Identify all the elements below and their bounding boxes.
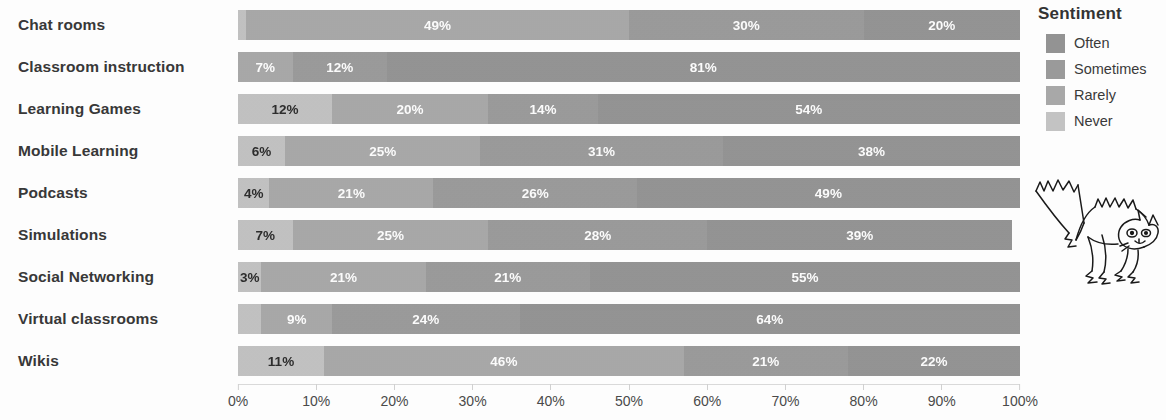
segment-value-label: 4% bbox=[244, 186, 264, 201]
bar-segment: 25% bbox=[293, 220, 489, 250]
x-axis-tick-label: 90% bbox=[928, 393, 956, 409]
category-label: Wikis bbox=[0, 352, 238, 370]
x-axis: 0%10%20%30%40%50%60%70%80%90%100% bbox=[238, 384, 1020, 418]
segment-value-label: 39% bbox=[846, 228, 873, 243]
bar-row: Podcasts4%21%26%49% bbox=[0, 172, 1020, 214]
bar-segment: 49% bbox=[637, 178, 1020, 208]
bar-segment: 25% bbox=[285, 136, 481, 166]
segment-value-label: 12% bbox=[271, 102, 298, 117]
bar-row: Social Networking3%21%21%55% bbox=[0, 256, 1020, 298]
x-axis-tick: 100% bbox=[1002, 384, 1038, 409]
category-label: Chat rooms bbox=[0, 16, 238, 34]
bar-row: Chat rooms49%30%20% bbox=[0, 4, 1020, 46]
legend-swatch-icon bbox=[1046, 60, 1065, 79]
bar-segment: 4% bbox=[238, 178, 269, 208]
tick-mark bbox=[863, 384, 864, 390]
legend-item[interactable]: Rarely bbox=[1046, 82, 1166, 108]
bar-segment: 11% bbox=[238, 346, 324, 376]
chart-page: Chat rooms49%30%20%Classroom instruction… bbox=[0, 0, 1166, 420]
category-label: Simulations bbox=[0, 226, 238, 244]
bar-segment: 24% bbox=[332, 304, 520, 334]
segment-value-label: 20% bbox=[928, 18, 955, 33]
category-label: Classroom instruction bbox=[0, 58, 238, 76]
legend-item[interactable]: Never bbox=[1046, 108, 1166, 134]
bar-segment: 30% bbox=[629, 10, 864, 40]
tick-mark bbox=[472, 384, 473, 390]
bar-segment: 31% bbox=[480, 136, 722, 166]
tick-mark bbox=[941, 384, 942, 390]
x-axis-tick-label: 100% bbox=[1002, 393, 1038, 409]
x-axis-tick: 20% bbox=[380, 384, 408, 409]
stacked-bar: 6%25%31%38% bbox=[238, 136, 1020, 166]
bar-row: Wikis11%46%21%22% bbox=[0, 340, 1020, 382]
legend-item[interactable]: Sometimes bbox=[1046, 56, 1166, 82]
tick-mark bbox=[785, 384, 786, 390]
tick-mark bbox=[629, 384, 630, 390]
segment-value-label: 55% bbox=[791, 270, 818, 285]
x-axis-tick: 80% bbox=[850, 384, 878, 409]
tick-mark bbox=[707, 384, 708, 390]
bar-segment: 54% bbox=[598, 94, 1020, 124]
bar-segment: 6% bbox=[238, 136, 285, 166]
segment-value-label: 7% bbox=[256, 228, 276, 243]
legend-label: Often bbox=[1074, 35, 1109, 51]
segment-value-label: 26% bbox=[522, 186, 549, 201]
segment-value-label: 20% bbox=[397, 102, 424, 117]
bar-segment: 21% bbox=[426, 262, 590, 292]
bar-segment: 81% bbox=[387, 52, 1020, 82]
bar-segment: 7% bbox=[238, 52, 293, 82]
x-axis-tick: 30% bbox=[459, 384, 487, 409]
category-label: Virtual classrooms bbox=[0, 310, 238, 328]
bar-segment: 28% bbox=[488, 220, 707, 250]
legend: Sentiment OftenSometimesRarelyNever bbox=[1032, 4, 1166, 134]
category-label: Mobile Learning bbox=[0, 142, 238, 160]
x-axis-tick: 50% bbox=[615, 384, 643, 409]
bar-segment: 3% bbox=[238, 262, 261, 292]
bar-row: Virtual classrooms9%24%64% bbox=[0, 298, 1020, 340]
legend-item-list: OftenSometimesRarelyNever bbox=[1032, 30, 1166, 134]
stacked-bar: 49%30%20% bbox=[238, 10, 1020, 40]
segment-value-label: 46% bbox=[490, 354, 517, 369]
tick-mark bbox=[316, 384, 317, 390]
bar-segment: 55% bbox=[590, 262, 1020, 292]
segment-value-label: 38% bbox=[858, 144, 885, 159]
bar-segment: 26% bbox=[433, 178, 636, 208]
bar-segment: 12% bbox=[293, 52, 387, 82]
bar-segment: 46% bbox=[324, 346, 684, 376]
legend-item[interactable]: Often bbox=[1046, 30, 1166, 56]
x-axis-tick-label: 40% bbox=[537, 393, 565, 409]
chart-plot-area: Chat rooms49%30%20%Classroom instruction… bbox=[0, 4, 1020, 382]
legend-label: Never bbox=[1074, 113, 1113, 129]
stacked-bar: 7%25%28%39% bbox=[238, 220, 1020, 250]
bar-segment: 38% bbox=[723, 136, 1020, 166]
legend-title: Sentiment bbox=[1038, 4, 1166, 24]
segment-value-label: 49% bbox=[424, 18, 451, 33]
x-axis-tick-label: 60% bbox=[693, 393, 721, 409]
legend-label: Sometimes bbox=[1074, 61, 1147, 77]
stacked-bar: 12%20%14%54% bbox=[238, 94, 1020, 124]
stacked-bar: 4%21%26%49% bbox=[238, 178, 1020, 208]
x-axis-tick-label: 30% bbox=[459, 393, 487, 409]
stacked-bar: 9%24%64% bbox=[238, 304, 1020, 334]
bar-row: Mobile Learning6%25%31%38% bbox=[0, 130, 1020, 172]
segment-value-label: 81% bbox=[690, 60, 717, 75]
x-axis-tick: 60% bbox=[693, 384, 721, 409]
x-axis-tick: 40% bbox=[537, 384, 565, 409]
bar-segment: 21% bbox=[261, 262, 425, 292]
segment-value-label: 9% bbox=[287, 312, 307, 327]
legend-swatch-icon bbox=[1046, 86, 1065, 105]
segment-value-label: 28% bbox=[584, 228, 611, 243]
bar-segment bbox=[238, 304, 261, 334]
stacked-bar: 7%12%81% bbox=[238, 52, 1020, 82]
x-axis-tick-label: 70% bbox=[771, 393, 799, 409]
bar-segment: 12% bbox=[238, 94, 332, 124]
x-axis-tick-label: 10% bbox=[302, 393, 330, 409]
bar-segment: 14% bbox=[488, 94, 597, 124]
segment-value-label: 11% bbox=[268, 354, 294, 369]
segment-value-label: 31% bbox=[588, 144, 615, 159]
tick-mark bbox=[550, 384, 551, 390]
bar-segment: 64% bbox=[520, 304, 1020, 334]
x-axis-tick-label: 20% bbox=[380, 393, 408, 409]
bar-segment: 21% bbox=[684, 346, 848, 376]
segment-value-label: 54% bbox=[795, 102, 822, 117]
